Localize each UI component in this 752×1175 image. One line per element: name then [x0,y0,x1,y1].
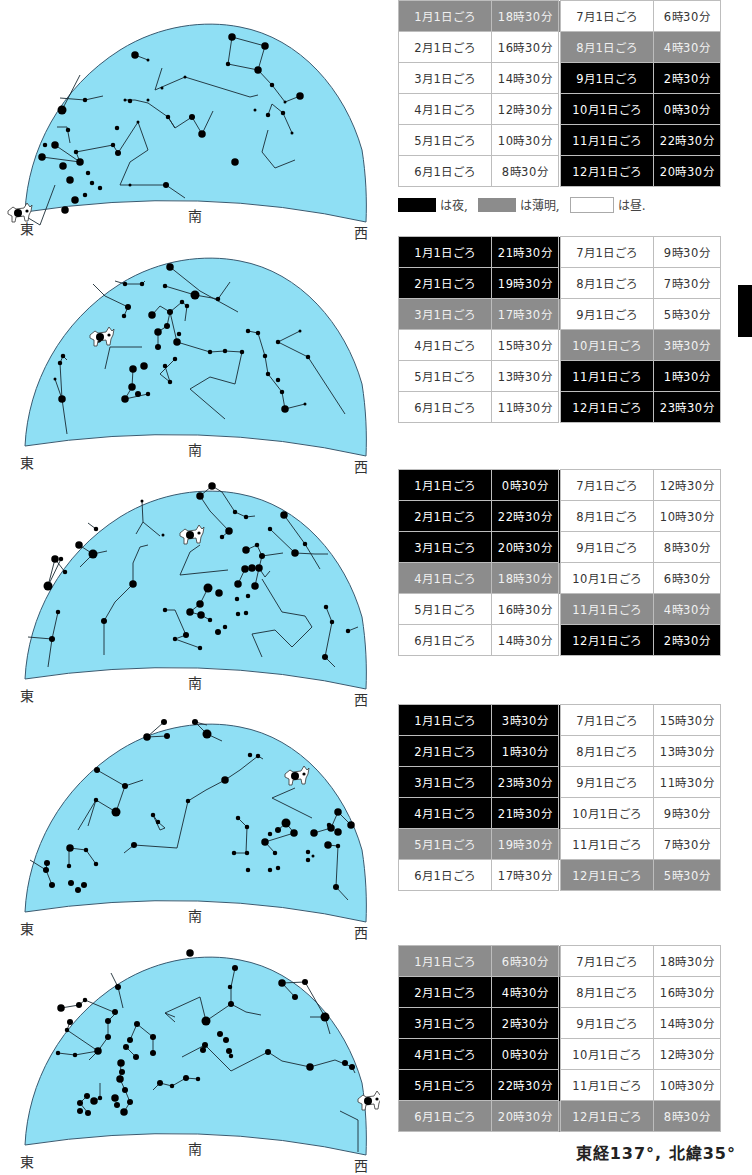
star-dot [268,527,273,532]
star-dot [150,1050,156,1056]
star-dot [330,620,335,625]
time-cell: 7時30分 [654,268,721,299]
star-dot [129,365,137,373]
star-dot [192,719,198,725]
sky-dome [25,491,366,689]
table-row: 4月1日ごろ15時30分10月1日ごろ3時30分 [399,330,721,361]
star-dot [276,340,281,345]
star-dot [58,106,67,115]
time-cell: 12時30分 [654,470,721,501]
date-cell: 6月1日ごろ [399,625,492,656]
star-dot [146,392,151,397]
star-dot [232,965,238,971]
table-row: 2月1日ごろ22時30分8月1日ごろ10時30分 [399,501,721,532]
date-cell: 1月1日ごろ [399,237,492,268]
time-cell: 6時30分 [654,563,721,594]
date-cell: 2月1日ごろ [399,977,492,1008]
time-cell: 4時30分 [492,977,560,1008]
star-dot [105,1018,111,1024]
star-dot [197,611,205,619]
star-dot [202,1042,208,1048]
star-dot [140,282,145,287]
star-dot [43,143,48,148]
date-cell: 12月1日ごろ [560,156,654,187]
time-cell: 15時30分 [654,705,721,736]
constellation-map [0,700,380,934]
star-dot [282,819,291,828]
star-dot [202,1017,211,1026]
direction-label-south: 南 [188,672,202,692]
star-dot [189,114,195,120]
star-dot [231,158,239,166]
star-dot [256,754,261,759]
star-dot [292,994,298,1000]
star-dot [223,349,228,354]
date-cell: 5月1日ごろ [399,125,492,156]
sky-chart: 東南西 [0,933,380,1167]
star-dot [167,309,173,315]
table-row: 1月1日ごろ0時30分7月1日ごろ12時30分 [399,470,721,501]
table-row: 4月1日ごろ18時30分10月1日ごろ6時30分 [399,563,721,594]
star-dot [173,637,178,642]
star-dot [59,557,64,562]
star-dot [51,141,59,149]
sky-chart: 東南西 [0,700,380,934]
star-dot [220,535,225,540]
time-cell: 22時30分 [654,125,721,156]
star-dot [244,611,249,616]
legend-swatch-night [398,198,436,212]
star-dot [226,1048,232,1054]
star-dot [137,121,140,124]
date-cell: 9月1日ごろ [560,1008,654,1039]
star-dot [143,733,151,741]
star-dot [151,813,156,818]
time-cell: 0時30分 [654,94,721,125]
star-dot [196,600,204,608]
star-dot [67,1019,73,1025]
star-dot [120,1108,128,1116]
date-cell: 6月1日ごろ [399,156,492,187]
table-row: 5月1日ごろ16時30分11月1日ごろ4時30分 [399,594,721,625]
time-cell: 15時30分 [492,330,560,361]
date-cell: 10月1日ごろ [560,330,654,361]
star-dot [216,297,221,302]
star-dot [296,92,304,100]
table-row: 6月1日ごろ14時30分12月1日ごろ2時30分 [399,625,721,656]
star-dot [75,887,81,893]
star-dot [270,83,275,88]
date-cell: 12月1日ごろ [560,392,654,423]
time-cell: 2時30分 [654,63,721,94]
time-cell: 3時30分 [492,705,560,736]
star-dot [74,150,79,155]
date-cell: 3月1日ごろ [399,532,492,563]
star-dot [131,842,137,848]
star-dot [75,541,83,549]
date-cell: 11月1日ごろ [560,1070,654,1101]
sky-panel-4: 東南西1月1日ごろ3時30分7月1日ごろ15時30分2月1日ごろ1時30分8月1… [0,700,752,934]
time-cell: 19時30分 [492,829,560,860]
star-dot [129,184,132,187]
time-cell: 0時30分 [492,470,560,501]
star-dot [255,564,263,572]
star-dot [98,186,103,191]
star-dot [59,162,67,170]
time-cell: 16時30分 [492,594,560,625]
star-dot [114,1102,120,1108]
star-dot [215,589,223,597]
time-cell: 10時30分 [492,125,560,156]
star-dot [240,350,245,355]
table-row: 3月1日ごろ17時30分9月1日ごろ5時30分 [399,299,721,330]
date-cell: 4月1日ごろ [399,798,492,829]
time-cell: 5時30分 [654,860,721,891]
star-dot [90,181,95,186]
star-dot [248,753,253,758]
time-cell: 4時30分 [654,594,721,625]
star-dot [215,629,221,635]
sky-panel-3: 東南西1月1日ごろ0時30分7月1日ごろ12時30分2月1日ごろ22時30分8月… [0,467,752,701]
time-cell: 21時30分 [492,798,560,829]
star-dot [86,171,91,176]
star-dot [236,612,241,617]
date-cell: 3月1日ごろ [399,63,492,94]
star-dot [128,383,136,391]
time-cell: 8時30分 [654,1101,721,1132]
